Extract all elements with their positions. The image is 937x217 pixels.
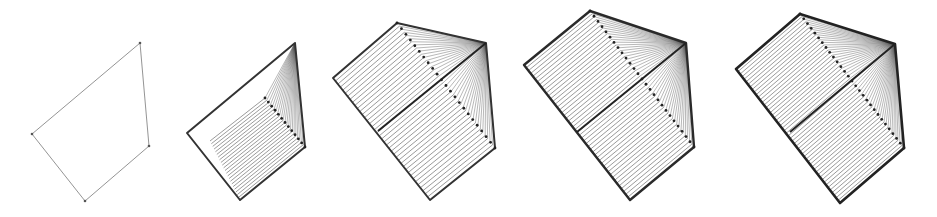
vertex-dot <box>865 99 868 102</box>
vertex-dot <box>139 42 142 45</box>
hatch-line <box>374 76 438 130</box>
vertex-dot <box>436 73 439 76</box>
vertex-dot <box>418 50 421 53</box>
vertex-dot <box>462 107 465 110</box>
vertex-dot <box>673 119 676 122</box>
vertex-dot <box>799 13 802 16</box>
vertex-dot <box>681 130 684 133</box>
hatch-line <box>232 134 294 184</box>
vertex-dot <box>839 65 842 68</box>
vertex-dot <box>802 17 805 20</box>
hatch-line <box>360 57 424 111</box>
fan-line <box>599 22 686 43</box>
hatch-line <box>221 116 280 163</box>
vertex-dot <box>277 113 280 116</box>
vertex-dot <box>304 146 307 149</box>
sweep-sequence-diagram <box>0 0 937 217</box>
vertex-dot <box>843 70 846 73</box>
hatch-line <box>389 95 454 148</box>
vertex-dot <box>31 133 34 136</box>
vertex-dot <box>821 41 824 44</box>
vertex-dot <box>431 67 434 70</box>
hatch-line <box>401 111 466 164</box>
vertex-dot <box>300 142 303 145</box>
hatch-line <box>386 92 451 145</box>
hatch-line <box>352 48 416 102</box>
diagonal-edge <box>577 43 686 132</box>
vertex-dot <box>593 15 596 18</box>
vertex-dot <box>597 20 600 23</box>
hatch-line <box>415 129 480 181</box>
vertex-dot <box>817 37 820 40</box>
vertex-dot <box>629 62 632 65</box>
vertex-dot <box>264 97 267 100</box>
vertex-dot <box>287 125 290 128</box>
vertex-dot <box>895 137 898 140</box>
vertex-dot <box>267 101 270 104</box>
panel-5 <box>736 13 905 203</box>
vertex-dot <box>601 25 604 28</box>
vertex-dot <box>677 125 680 128</box>
hatch-line <box>423 139 488 191</box>
vertex-dot <box>445 84 448 87</box>
hatch-line <box>428 145 493 197</box>
panel-2 <box>187 43 306 200</box>
vertex-dot <box>284 121 287 124</box>
hatch-line <box>338 29 402 84</box>
vertex-dot <box>869 104 872 107</box>
vertex-dot <box>858 89 861 92</box>
vertex-dot <box>813 32 816 35</box>
vertex-dot <box>400 27 403 30</box>
hatch-line <box>335 26 399 81</box>
hatch-line <box>398 107 463 160</box>
hatch-line <box>362 61 426 115</box>
vertex-dot <box>899 142 902 145</box>
hatch-line <box>229 129 290 178</box>
vertex-dot <box>665 109 668 112</box>
hatch-line <box>218 111 276 157</box>
vertex-dot <box>825 46 828 49</box>
vertex-dot <box>637 72 640 75</box>
vertex-dot <box>625 57 628 60</box>
vertex-dot <box>645 83 648 86</box>
vertex-dot <box>661 104 664 107</box>
panel-4 <box>524 10 695 200</box>
vertex-dot <box>454 95 457 98</box>
vertex-dot <box>290 129 293 132</box>
vertex-dot <box>480 130 483 133</box>
hatch-line <box>396 104 461 157</box>
hatch-line <box>411 123 476 176</box>
vertex-dot <box>270 105 273 108</box>
vertex-dot <box>873 108 876 111</box>
hatch-line <box>237 143 301 195</box>
vertex-dot <box>851 80 854 83</box>
vertex-dot <box>806 22 809 25</box>
vertex-dot <box>617 46 620 49</box>
vertex-dot <box>832 56 835 59</box>
hatch-line <box>220 114 278 160</box>
vertex-dot <box>862 94 865 97</box>
panel-1 <box>31 42 151 203</box>
vertex-dot <box>888 127 891 130</box>
vertex-dot <box>274 109 277 112</box>
vertex-dot <box>485 135 488 138</box>
vertex-dot <box>641 78 644 81</box>
hatch-line <box>391 98 456 151</box>
vertex-dot <box>609 36 612 39</box>
vertex-dot <box>409 39 412 42</box>
vertex-dot <box>880 118 883 121</box>
hatch-line <box>217 109 274 154</box>
vertex-dot <box>689 140 692 143</box>
vertex-dot <box>458 101 461 104</box>
hatch-line <box>215 107 272 152</box>
hatch-line <box>214 105 270 149</box>
vertex-dot <box>294 133 297 136</box>
hatch-line <box>355 51 419 105</box>
hatch-line <box>384 89 449 142</box>
vertex-dot <box>891 132 894 135</box>
vertex-dot <box>884 123 887 126</box>
hatch-line <box>408 120 473 173</box>
vertex-dot <box>471 118 474 121</box>
hatch-line <box>379 82 443 136</box>
vertex-dot <box>84 200 87 203</box>
